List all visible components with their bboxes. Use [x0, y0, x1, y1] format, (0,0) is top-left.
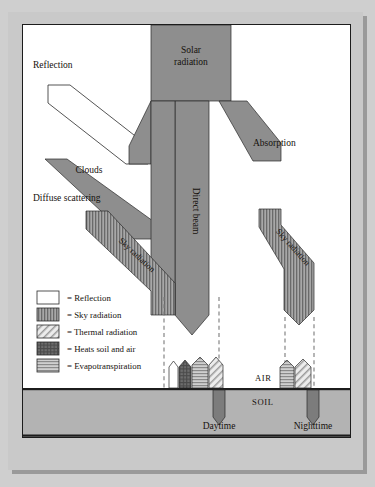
figure-stage: Solar radiation Reflection Clouds Absorp…: [0, 0, 375, 487]
label-soil: SOIL: [252, 397, 274, 407]
label-daytime: Daytime: [203, 421, 236, 431]
legend-label-thermal-radiation: = Thermal radiation: [67, 327, 138, 337]
absorption-band: [219, 101, 281, 161]
legend-label-evapotranspiration: = Evapotranspiration: [67, 361, 142, 371]
label-nighttime: Nighttime: [294, 421, 333, 431]
legend-item-evapotranspiration: = Evapotranspiration: [37, 359, 142, 372]
legend-item-reflection: = Reflection: [37, 291, 111, 304]
label-clouds: Clouds: [76, 165, 103, 175]
label-reflection: Reflection: [33, 60, 73, 70]
legend-label-heats-soil-and-air: = Heats soil and air: [67, 344, 136, 354]
label-solar-radiation-line1: Solar: [181, 45, 202, 55]
radiation-diagram: Solar radiation Reflection Clouds Absorp…: [23, 25, 350, 437]
cloud-deflection-band: [129, 101, 151, 164]
label-air: AIR: [255, 373, 272, 383]
label-direct-beam: Direct beam: [191, 188, 201, 235]
label-absorption: Absorption: [253, 138, 296, 148]
legend-label-reflection: = Reflection: [67, 293, 111, 303]
legend-item-sky-radiation: = Sky radiation: [37, 308, 122, 321]
legend-item-thermal-radiation: = Thermal radiation: [37, 325, 138, 338]
sky-radiation-right: [259, 209, 314, 325]
legend: = Reflection = Sky radiation = Thermal r…: [37, 291, 142, 372]
figure-plate: Solar radiation Reflection Clouds Absorp…: [22, 24, 351, 438]
label-diffuse-scattering: Diffuse scattering: [33, 193, 101, 203]
legend-item-heats-soil-and-air: = Heats soil and air: [37, 342, 136, 355]
legend-label-sky-radiation: = Sky radiation: [67, 310, 122, 320]
label-solar-radiation-line2: radiation: [174, 57, 208, 67]
